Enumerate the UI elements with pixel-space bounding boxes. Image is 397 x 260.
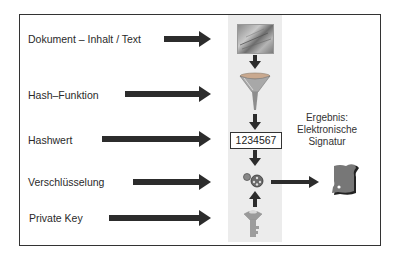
arrow-private-key bbox=[109, 210, 211, 226]
arrow-down-2 bbox=[249, 114, 261, 130]
arrow-to-result bbox=[271, 174, 321, 190]
result-line-3: Signatur bbox=[296, 136, 358, 148]
label-private-key: Private Key bbox=[29, 212, 83, 224]
key-icon bbox=[242, 208, 264, 240]
gears-icon bbox=[242, 170, 266, 190]
result-line-2: Elektronische bbox=[296, 124, 358, 136]
funnel-icon bbox=[238, 72, 272, 112]
arrow-up-key bbox=[249, 191, 261, 207]
label-hash-value: Hashwert bbox=[28, 134, 72, 146]
result-line-1: Ergebnis: bbox=[296, 112, 358, 124]
arrow-encryption bbox=[133, 174, 211, 190]
label-hash-function: Hash–Funktion bbox=[28, 89, 99, 101]
arrow-down-1 bbox=[249, 55, 261, 69]
label-encryption: Verschlüsselung bbox=[28, 176, 104, 188]
result-label: Ergebnis: Elektronische Signatur bbox=[296, 112, 358, 148]
hash-value-box: 1234567 bbox=[230, 132, 282, 149]
arrow-hash-function bbox=[125, 86, 211, 102]
signature-card-icon bbox=[330, 163, 362, 199]
document-texture-icon bbox=[237, 24, 274, 54]
arrow-document bbox=[164, 31, 211, 47]
label-document: Dokument – Inhalt / Text bbox=[28, 33, 141, 45]
arrow-down-3 bbox=[249, 150, 261, 166]
arrow-hash-value bbox=[102, 131, 211, 147]
